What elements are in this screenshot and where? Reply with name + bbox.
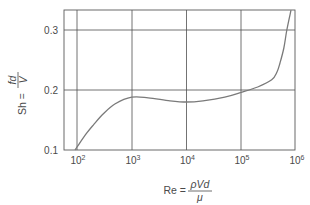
x-tick-1e6: 106 bbox=[289, 154, 304, 166]
strouhal-reynolds-chart: 0.1 0.2 0.3 102 103 104 105 106 Sh = fd … bbox=[0, 0, 310, 205]
y-tick-0.2: 0.2 bbox=[44, 85, 58, 96]
x-tick-1e5: 105 bbox=[234, 154, 249, 166]
x-tick-1e4: 104 bbox=[180, 154, 195, 166]
y-tick-labels: 0.1 0.2 0.3 bbox=[44, 25, 58, 156]
x-tick-1e2: 102 bbox=[70, 154, 85, 166]
x-axis-label: Re = ρVd μ bbox=[164, 178, 212, 203]
y-tick-0.3: 0.3 bbox=[44, 25, 58, 36]
plot-frame bbox=[64, 10, 295, 150]
x-tick-labels: 102 103 104 105 106 bbox=[70, 154, 304, 166]
y-label-denominator: V bbox=[17, 76, 29, 84]
x-label-lhs: Re = bbox=[164, 184, 186, 196]
x-label-numerator: ρVd bbox=[190, 178, 211, 190]
y-axis-label: Sh = fd V bbox=[6, 72, 29, 115]
grid-lines bbox=[64, 10, 295, 150]
sh-re-curve bbox=[75, 10, 291, 150]
x-label-denominator: μ bbox=[196, 191, 203, 203]
y-tick-0.1: 0.1 bbox=[44, 145, 58, 156]
y-label-lhs: Sh = bbox=[16, 93, 28, 115]
x-tick-1e3: 103 bbox=[125, 154, 140, 166]
